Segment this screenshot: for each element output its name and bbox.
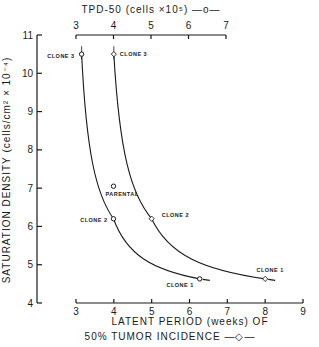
point-label: CLONE 3 (47, 53, 74, 59)
diamond-marker (111, 52, 116, 57)
y-tick-label: 5 (27, 259, 33, 270)
point-label: CLONE 1 (256, 267, 283, 273)
top-tick-label: 6 (186, 20, 192, 31)
top-tick-label: 7 (223, 20, 229, 31)
y-tick-label: 9 (27, 106, 33, 117)
bottom-tick-label: 9 (300, 306, 306, 317)
curve-tail (203, 279, 210, 280)
circle-marker (79, 52, 83, 56)
top-tick-label: 3 (73, 20, 79, 31)
top-tick-label: 4 (111, 20, 117, 31)
y-tick-label: 4 (27, 298, 33, 309)
bottom-axis-title-line1: LATENT PERIOD (weeks) OF (112, 316, 269, 327)
circle-marker (198, 277, 202, 281)
point-label: CLONE 2 (80, 217, 107, 223)
y-tick-label: 8 (27, 144, 33, 155)
point-label: PARENTAL (106, 191, 139, 197)
top-tick-label: 5 (148, 20, 154, 31)
chart: 4567891011345673456789 CLONE 3PARENTALCL… (0, 0, 319, 347)
point-label: CLONE 3 (120, 51, 147, 57)
bottom-tick-label: 3 (73, 306, 79, 317)
y-tick-label: 6 (27, 221, 33, 232)
top-axis-title: TPD-50 (cells ×10⁵) —o— (81, 4, 220, 15)
y-tick-label: 7 (27, 183, 33, 194)
curve-latent-period (114, 54, 265, 279)
point-label: CLONE 1 (166, 282, 193, 288)
y-axis-title: SATURATION DENSITY (cells/cm² × 10⁻⁴) (1, 57, 12, 284)
diamond-marker (263, 276, 268, 281)
bottom-axis-title-line2: 50% TUMOR INCIDENCE —◇— (85, 331, 256, 342)
circle-marker (111, 217, 115, 221)
y-tick-label: 10 (22, 68, 34, 79)
point-label: CLONE 2 (162, 212, 189, 218)
circle-marker (111, 184, 115, 188)
y-tick-label: 11 (23, 30, 34, 41)
curve-tpd50 (82, 54, 200, 279)
curve-tail (268, 279, 275, 280)
